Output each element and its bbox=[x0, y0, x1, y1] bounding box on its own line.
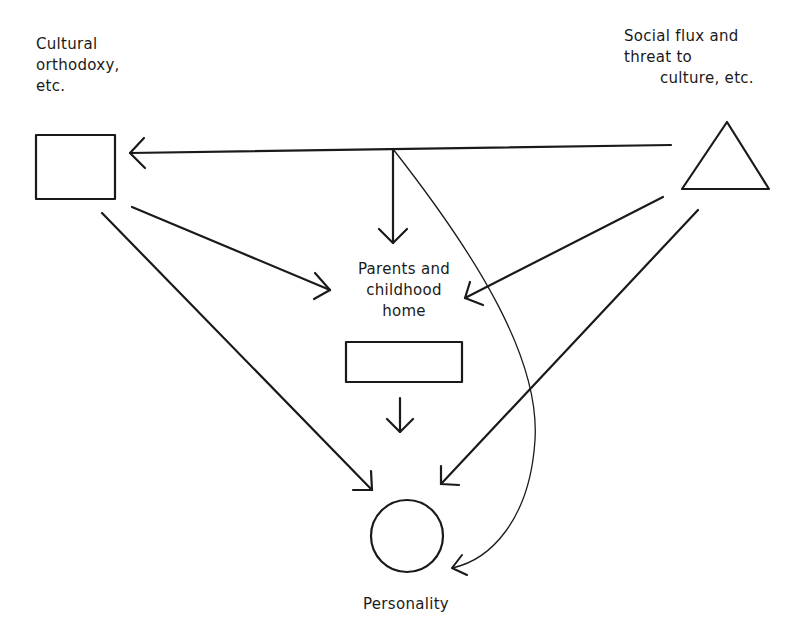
culture-node-label: Cultural orthodoxy, etc. bbox=[36, 34, 120, 97]
parents-label-line-2: childhood bbox=[348, 280, 460, 301]
edge-junction-to-parents bbox=[379, 149, 407, 243]
personality-node-label: Personality bbox=[350, 594, 462, 615]
personality-label-line-1: Personality bbox=[350, 594, 462, 615]
edge-social-to-personality bbox=[441, 210, 698, 485]
edge-social-to-culture bbox=[130, 138, 671, 168]
edge-social-to-parents bbox=[465, 197, 663, 305]
edge-junction-curve-to-personality bbox=[393, 149, 535, 575]
social-label-line-2: threat to bbox=[624, 47, 754, 68]
culture-label-line-1: Cultural bbox=[36, 34, 120, 55]
culture-label-line-2: orthodoxy, bbox=[36, 55, 120, 76]
edge-culture-to-personality bbox=[102, 213, 372, 490]
edge-parents-to-personality bbox=[387, 398, 413, 432]
social-node-label: Social flux and threat to culture, etc. bbox=[624, 26, 754, 89]
parents-node-label: Parents and childhood home bbox=[348, 259, 460, 322]
arrowhead-icon bbox=[452, 555, 467, 575]
parents-node-box bbox=[346, 342, 462, 382]
personality-node-circle bbox=[371, 500, 443, 572]
social-label-line-3: culture, etc. bbox=[624, 68, 754, 89]
edge-culture-to-parents bbox=[132, 207, 330, 299]
parents-label-line-3: home bbox=[348, 301, 460, 322]
parents-label-line-1: Parents and bbox=[348, 259, 460, 280]
culture-node-box bbox=[36, 135, 115, 199]
social-label-line-1: Social flux and bbox=[624, 26, 754, 47]
social-node-triangle bbox=[682, 122, 769, 189]
culture-label-line-3: etc. bbox=[36, 76, 120, 97]
